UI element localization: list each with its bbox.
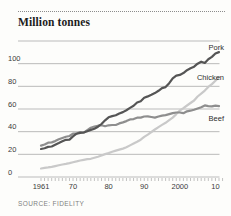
series-label-chicken: Chicken [197, 73, 224, 82]
y-axis-tick-label: 60 [8, 100, 16, 109]
meat-production-chart: Million tonnes 0204060801001961708090200… [0, 0, 231, 216]
chart-canvas: 0204060801001961708090200010ChickenBeefP… [0, 0, 231, 216]
x-axis-tick-label: 2000 [171, 182, 188, 191]
x-axis-tick-label: 80 [104, 182, 112, 191]
series-line-chicken [41, 77, 219, 168]
y-axis-tick-label: 100 [8, 54, 21, 63]
series-label-beef: Beef [209, 114, 225, 123]
x-axis-tick-label: 10 [211, 182, 219, 191]
y-axis-tick-label: 80 [8, 77, 16, 86]
y-axis-tick-label: 0 [8, 168, 12, 177]
x-axis-tick-label: 70 [69, 182, 77, 191]
x-axis-tick-label: 1961 [33, 182, 50, 191]
y-axis-tick-label: 40 [8, 122, 16, 131]
series-label-pork: Pork [209, 43, 225, 52]
y-axis-tick-label: 20 [8, 145, 16, 154]
source-note: SOURCE: FIDELITY [18, 200, 84, 207]
x-axis-tick-label: 90 [140, 182, 148, 191]
